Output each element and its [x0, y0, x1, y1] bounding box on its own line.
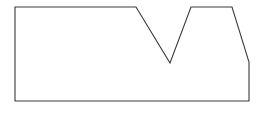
figure-canvas [0, 0, 265, 113]
polygon-svg [0, 0, 265, 113]
notched-polygon-shape [15, 7, 249, 101]
